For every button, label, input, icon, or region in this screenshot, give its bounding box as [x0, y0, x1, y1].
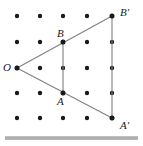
grid-dot-r1-c0: [15, 40, 19, 44]
grid-dot-r3-c1: [38, 91, 42, 95]
grid-dot-r1-c1: [38, 40, 42, 44]
bottom-rule-divider: [5, 136, 138, 140]
grid-dot-r4-c2: [61, 116, 65, 120]
grid-dot-r3-c0: [15, 91, 19, 95]
grid-dot-r4-c0: [15, 116, 19, 120]
vertex-dot-Ap: [110, 116, 115, 121]
dot-grid: [15, 14, 114, 120]
grid-dot-r2-c1: [38, 66, 42, 70]
geometry-figure: OBAB'A': [0, 0, 143, 146]
grid-dot-r1-c3: [85, 40, 89, 44]
grid-dot-r4-c3: [85, 116, 89, 120]
vertex-label-Ap: A': [120, 120, 129, 131]
vertex-label-A: A: [57, 96, 64, 107]
vertex-label-O: O: [3, 62, 11, 73]
vertex-dot-B: [61, 40, 66, 45]
grid-dot-r0-c0: [15, 14, 19, 18]
grid-dot-r4-c1: [38, 116, 42, 120]
vertex-dot-O: [15, 66, 20, 71]
grid-dot-r0-c1: [38, 14, 42, 18]
vertex-label-B: B: [57, 28, 64, 39]
vertex-label-Bp: B': [120, 7, 129, 18]
vertex-dot-Bp: [110, 14, 115, 19]
grid-dot-r0-c3: [85, 14, 89, 18]
grid-dot-r2-c3: [85, 66, 89, 70]
grid-dot-r3-c3: [85, 91, 89, 95]
grid-dot-r0-c2: [61, 14, 65, 18]
